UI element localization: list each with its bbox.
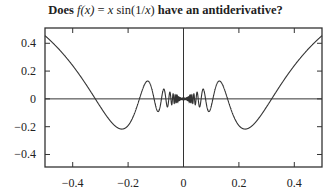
y-tick-label: −0.2 [14, 120, 36, 134]
x-tick-label: 0 [181, 176, 187, 190]
x-tick-labels: −0.4−0.200.20.4 [62, 176, 302, 190]
y-tick-label: 0.2 [21, 64, 36, 78]
y-tick-label: 0.4 [21, 36, 36, 50]
x-tick-label: −0.4 [62, 176, 84, 190]
x-tick-label: 0.4 [287, 176, 302, 190]
y-tick-label: 0 [30, 92, 36, 106]
zero-axes [45, 28, 322, 167]
x-tick-label: 0.2 [231, 176, 246, 190]
plot-area: −0.4−0.200.20.4 0.40.20−0.2−0.4 [0, 0, 331, 193]
y-tick-labels: 0.40.20−0.2−0.4 [14, 36, 36, 161]
x-tick-label: −0.2 [117, 176, 139, 190]
y-tick-label: −0.4 [14, 147, 36, 161]
